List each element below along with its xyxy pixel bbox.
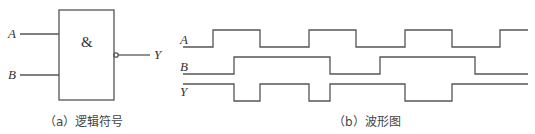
caption-a: （a）逻辑符号 <box>44 114 123 129</box>
caption-b: （b）波形图 <box>333 115 401 129</box>
waveform-panel: A B Y （b）波形图 <box>179 30 528 129</box>
wave-a <box>183 30 528 47</box>
wave-b-label: B <box>180 59 188 74</box>
input-a-label: A <box>7 26 16 41</box>
logic-symbol-panel: A B & Y （a）逻辑符号 <box>7 10 163 129</box>
output-y-label: Y <box>154 47 163 62</box>
wave-a-label: A <box>179 32 188 47</box>
wave-y-label: Y <box>180 84 189 99</box>
and-symbol: & <box>81 34 93 50</box>
input-b-label: B <box>8 67 16 82</box>
wave-y <box>183 84 528 101</box>
nand-gate-figure: A B & Y （a）逻辑符号 A B Y （b）波形图 <box>0 0 535 134</box>
gate-body <box>59 10 114 100</box>
wave-b <box>183 57 528 74</box>
